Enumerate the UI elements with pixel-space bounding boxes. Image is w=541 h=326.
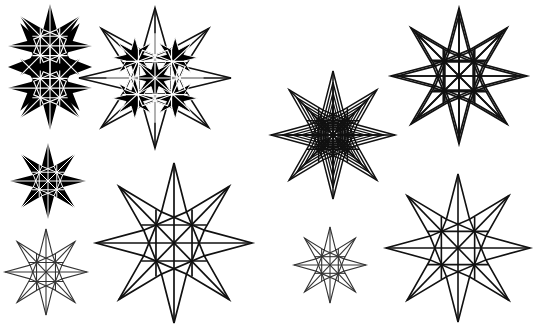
star-outline-layer-1: [398, 15, 520, 137]
inner-grid-lines: [10, 143, 86, 219]
star-canvas: Filled 8-point star, vertically elongate…: [0, 0, 541, 326]
nested-star-layer-5: [314, 116, 351, 154]
bottom-right-star: Bottom-right thin-line 8-point star: [386, 174, 530, 322]
star-outline: [5, 229, 87, 315]
star-outline: [386, 174, 530, 322]
large-thin-star: Large thin-line 8-point star: [96, 163, 252, 323]
nested-multi-scale-star: Nested multi-scale 8-point star cluster: [271, 71, 395, 199]
small-filled-star: Small filled 8-point star: [10, 143, 86, 219]
small-thin-star: Small thin-line 8-point star: [5, 229, 87, 315]
star-outline: [96, 163, 252, 323]
star-outline: [294, 227, 366, 303]
outlined-star-filled-core: Large outlined 8-point star with dense f…: [79, 8, 231, 148]
filled-core-cluster: [106, 33, 203, 123]
small-center-star: Small centre 8-point star: [294, 227, 366, 303]
inner-grid-lines: [8, 46, 92, 130]
doubled-line-star: 8-point star with doubled parallel strok…: [391, 8, 527, 144]
figure-plate: Filled 8-point star, vertically elongate…: [0, 0, 541, 326]
